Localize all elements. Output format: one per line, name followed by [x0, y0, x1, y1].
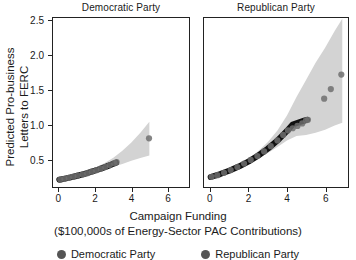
- x-axis-title-line1: Campaign Funding: [0, 209, 356, 224]
- data-point: [274, 137, 280, 143]
- x-tick-label: 4: [284, 193, 290, 204]
- data-point: [228, 167, 234, 173]
- data-point: [209, 174, 215, 180]
- data-point: [338, 71, 344, 77]
- legend-item[interactable]: Republican Party: [201, 248, 299, 260]
- panel-democratic-party: [52, 17, 190, 188]
- confidence-ribbon: [59, 122, 149, 181]
- legend-item[interactable]: Democratic Party: [57, 248, 155, 260]
- y-tick-label: 1.5: [30, 85, 44, 96]
- x-axis-title: Campaign Funding ($100,000s of Energy-Se…: [0, 209, 356, 239]
- data-point: [280, 132, 286, 138]
- y-tick-label: 2.5: [30, 15, 44, 26]
- data-point: [234, 164, 240, 170]
- facet-title-democratic-party: Democratic Party: [52, 2, 190, 13]
- y-tick-label: 0.5: [30, 155, 44, 166]
- x-tick-mark: [95, 188, 96, 192]
- panel-republican-party: [203, 17, 349, 188]
- chart-figure: Democratic Party Republican Party 0.51.0…: [0, 0, 356, 260]
- x-tick-label: 4: [129, 193, 135, 204]
- x-tick-mark: [210, 188, 211, 192]
- x-tick-mark: [58, 188, 59, 192]
- x-axis-title-line2: ($100,000s of Energy-Sector PAC Contribu…: [0, 224, 356, 239]
- panel-plot-area: [53, 18, 189, 187]
- data-point: [268, 143, 274, 149]
- x-tick-mark: [132, 188, 133, 192]
- y-tick-label: 1.0: [30, 120, 44, 131]
- legend: Democratic PartyRepublican Party: [0, 248, 356, 260]
- data-point: [113, 159, 119, 165]
- data-point: [321, 96, 327, 102]
- x-tick-label: 2: [92, 193, 98, 204]
- x-tick-mark: [248, 188, 249, 192]
- facet-title-republican-party: Republican Party: [203, 2, 349, 13]
- data-point: [221, 170, 227, 176]
- x-axis-democratic-party: 0246: [52, 188, 190, 210]
- data-point: [248, 157, 254, 163]
- x-tick-label: 0: [207, 193, 213, 204]
- x-tick-label: 6: [165, 193, 171, 204]
- panel-plot-area: [204, 18, 348, 187]
- x-tick-mark: [168, 188, 169, 192]
- x-tick-mark: [326, 188, 327, 192]
- y-axis-title-line1: Predicted Pro-business: [3, 12, 17, 202]
- data-point: [146, 135, 152, 141]
- data-point: [261, 148, 267, 154]
- legend-key-icon: [201, 250, 210, 259]
- legend-label: Democratic Party: [71, 248, 155, 260]
- data-point: [328, 86, 334, 92]
- data-point: [305, 117, 311, 123]
- y-axis-title-line2: Letters to FERC: [17, 12, 31, 202]
- legend-label: Republican Party: [215, 248, 299, 260]
- data-point: [241, 160, 247, 166]
- x-axis-republican-party: 0246: [203, 188, 349, 210]
- x-tick-label: 0: [56, 193, 62, 204]
- x-tick-label: 6: [323, 193, 329, 204]
- data-point: [214, 172, 220, 178]
- y-axis-title: Predicted Pro-business Letters to FERC: [3, 12, 31, 202]
- data-point: [254, 153, 260, 159]
- y-tick-label: 2.0: [30, 50, 44, 61]
- x-tick-label: 2: [246, 193, 252, 204]
- legend-key-icon: [57, 250, 66, 259]
- x-tick-mark: [287, 188, 288, 192]
